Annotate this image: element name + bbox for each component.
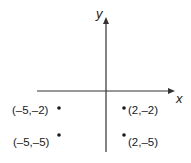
point-marker-2-neg2 [122,106,126,110]
point-label-neg5-neg5: (–5,–5) [13,136,49,148]
point-label-neg5-neg2: (–5,–2) [12,104,48,116]
point-marker-neg5-neg2 [57,106,61,110]
x-axis-arrow-icon [168,88,175,94]
point-marker-neg5-neg5 [57,133,61,137]
point-marker-2-neg5 [122,133,126,137]
y-axis-label: y [96,7,103,20]
point-label-2-neg5: (2,–5) [128,136,158,148]
point-label-2-neg2: (2,–2) [128,104,158,116]
x-axis-label: x [176,92,183,105]
y-axis-arrow-icon [103,17,109,24]
